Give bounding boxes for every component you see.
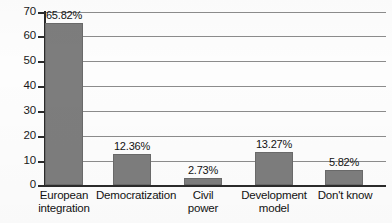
x-axis-category-label-civil-power: Civil power [175,189,231,215]
category-label-line2: model [238,202,310,215]
x-axis-category-label-dont-know: Don't know [310,189,380,202]
category-label-line1: European [40,189,88,201]
y-tick-20 [38,136,45,138]
y-tick-10 [38,161,45,163]
y-axis-tick-label: 60 [2,29,36,41]
gridline-50 [44,61,386,62]
category-label-line2: power [175,202,231,215]
plot-area: 70 60 50 40 30 20 10 0 [0,0,392,223]
bar-value-label: 65.82% [34,9,94,21]
x-axis-category-label-european-integration: European integration [28,189,100,215]
gridline-40 [44,86,386,87]
category-label-line1: Democratization [96,189,176,201]
bar-chart-figure: 70 60 50 40 30 20 10 0 [0,0,392,223]
bar-value-label: 5.82% [314,156,374,168]
y-tick-30 [38,111,45,113]
bar-development-model [255,152,293,185]
bar-european-integration [45,23,83,185]
gridline-20 [44,136,386,137]
category-label-line1: Civil [193,189,214,201]
bar-democratization [113,154,151,185]
category-label-line2: integration [28,202,100,215]
y-tick-50 [38,61,45,63]
category-label-line1: Development [241,189,307,201]
bar-civil-power [184,178,222,185]
y-tick-60 [38,36,45,38]
bar-dont-know [325,170,363,185]
bar-value-label: 2.73% [173,164,233,176]
bar-value-label: 13.27% [244,138,304,150]
x-axis-line [41,185,386,187]
gridline-70 [44,12,386,13]
bar-value-label: 12.36% [102,140,162,152]
y-axis-tick-label: 70 [2,5,36,17]
x-axis-category-label-development-model: Development model [238,189,310,215]
x-axis-category-label-democratization: Democratization [96,189,170,202]
gridline-60 [44,36,386,37]
y-axis-tick-label: 30 [2,104,36,116]
y-axis-tick-label: 10 [2,154,36,166]
y-axis-tick-label: 40 [2,79,36,91]
gridline-30 [44,111,386,112]
y-axis-tick-label: 50 [2,54,36,66]
category-label-line1: Don't know [318,189,373,201]
y-axis-tick-label: 20 [2,129,36,141]
y-tick-40 [38,86,45,88]
